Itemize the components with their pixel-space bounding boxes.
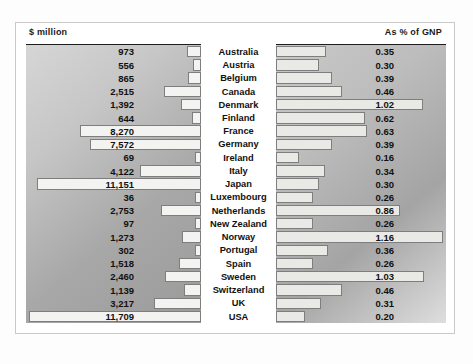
country-label: Australia: [202, 46, 275, 59]
gnp-percent-value: 0.34: [276, 166, 394, 177]
country-row: Japan: [202, 177, 275, 191]
chart-header: $ million As % of GNP: [16, 23, 454, 44]
gnp-percent-value: 0.46: [276, 285, 394, 296]
aid-amount-bar: [161, 205, 201, 216]
aid-amount-bar: [195, 152, 201, 163]
country-label: Belgium: [202, 72, 275, 85]
aid-amount-value: 97: [26, 218, 134, 229]
country-label: Norway: [202, 231, 275, 244]
left-bar-row: 2,460: [26, 270, 201, 284]
aid-amount-bar: [192, 112, 201, 123]
country-row: Netherlands: [202, 204, 275, 218]
left-bar-row: 4,122: [26, 164, 201, 178]
country-row: Italy: [202, 164, 275, 178]
left-bar-row: 973: [26, 45, 201, 59]
aid-amount-bar: [187, 46, 201, 57]
left-bar-row: 2,753: [26, 204, 201, 218]
right-bar-row: 0.26: [276, 191, 446, 205]
gnp-percent-value: 0.86: [276, 205, 394, 216]
country-label: Denmark: [202, 99, 275, 112]
left-bar-row: 36: [26, 191, 201, 205]
aid-amount-bar: [188, 72, 201, 83]
left-bar-row: 8,270: [26, 124, 201, 138]
country-label: Canada: [202, 86, 275, 99]
country-row: USA: [202, 310, 275, 324]
aid-amount-bar: [182, 231, 201, 242]
right-bar-row: 1.03: [276, 270, 446, 284]
country-row: Luxembourg: [202, 191, 275, 205]
country-label: Netherlands: [202, 205, 275, 218]
right-bar-row: 0.36: [276, 244, 446, 258]
aid-amount-value: 1,518: [26, 258, 134, 269]
aid-amount-value: 2,515: [26, 86, 134, 97]
gnp-percent-value: 0.20: [276, 311, 394, 322]
aid-amount-value: 302: [26, 245, 134, 256]
left-bar-row: 556: [26, 58, 201, 72]
country-row: Norway: [202, 230, 275, 244]
right-bar-row: 0.30: [276, 177, 446, 191]
left-bar-row: 69: [26, 151, 201, 165]
left-bar-row: 302: [26, 244, 201, 258]
aid-amount-value: 973: [26, 46, 134, 57]
gnp-percent-value: 0.31: [276, 298, 394, 309]
aid-amount-value: 1,392: [26, 99, 134, 110]
gnp-percent-value: 0.39: [276, 139, 394, 150]
country-row: Austria: [202, 58, 275, 72]
aid-amount-value: 4,122: [26, 166, 134, 177]
aid-amount-value: 1,273: [26, 232, 134, 243]
left-bar-row: 644: [26, 111, 201, 125]
aid-amount-bar: [181, 99, 201, 110]
country-row: Spain: [202, 257, 275, 271]
left-bar-row: 1,392: [26, 98, 201, 112]
country-row: France: [202, 124, 275, 138]
aid-amount-value: 556: [26, 60, 134, 71]
left-bar-panel: 9735568652,5151,3926448,2707,572694,1221…: [26, 45, 201, 323]
country-row: UK: [202, 297, 275, 311]
country-label: Spain: [202, 258, 275, 271]
country-row: Germany: [202, 138, 275, 152]
country-row: Denmark: [202, 98, 275, 112]
left-axis-title: $ million: [29, 27, 67, 37]
right-bar-row: 0.26: [276, 257, 446, 271]
country-row: Sweden: [202, 270, 275, 284]
right-bar-row: 0.34: [276, 164, 446, 178]
country-label: Finland: [202, 112, 275, 125]
aid-amount-bar: [140, 165, 201, 176]
aid-amount-value: 36: [26, 192, 134, 203]
country-label: Luxembourg: [202, 191, 275, 204]
right-bar-row: 1.02: [276, 98, 446, 112]
left-bar-row: 11,151: [26, 177, 201, 191]
gnp-percent-value: 0.30: [276, 60, 394, 71]
left-bar-row: 865: [26, 71, 201, 85]
country-label: Japan: [202, 178, 275, 191]
right-bar-panel: 0.350.300.390.461.020.620.630.390.160.34…: [276, 45, 446, 323]
right-bar-row: 0.39: [276, 71, 446, 85]
left-bar-row: 11,709: [26, 310, 201, 324]
chart-canvas: $ million As % of GNP 9735568652,5151,39…: [0, 0, 473, 364]
left-bar-row: 97: [26, 217, 201, 231]
aid-amount-value: 11,151: [26, 179, 134, 190]
right-bar-row: 0.31: [276, 297, 446, 311]
gnp-percent-value: 0.16: [276, 152, 394, 163]
aid-amount-value: 8,270: [26, 126, 134, 137]
aid-amount-value: 2,753: [26, 205, 134, 216]
right-bar-row: 0.26: [276, 217, 446, 231]
gnp-percent-value: 1.03: [276, 271, 394, 282]
right-bar-row: 1.16: [276, 230, 446, 244]
aid-amount-bar: [179, 258, 201, 269]
aid-amount-bar: [195, 218, 201, 229]
aid-amount-bar: [165, 271, 201, 282]
aid-amount-value: 2,460: [26, 271, 134, 282]
country-row: Belgium: [202, 71, 275, 85]
gnp-percent-value: 0.26: [276, 192, 394, 203]
left-bar-row: 1,273: [26, 230, 201, 244]
aid-amount-value: 865: [26, 73, 134, 84]
left-bar-row: 7,572: [26, 138, 201, 152]
left-bar-row: 2,515: [26, 85, 201, 99]
gnp-percent-value: 1.02: [276, 99, 394, 110]
aid-amount-bar: [164, 86, 201, 97]
gnp-percent-value: 0.39: [276, 73, 394, 84]
right-axis-title: As % of GNP: [385, 27, 442, 37]
country-label: Austria: [202, 59, 275, 72]
country-row: Switzerland: [202, 283, 275, 297]
